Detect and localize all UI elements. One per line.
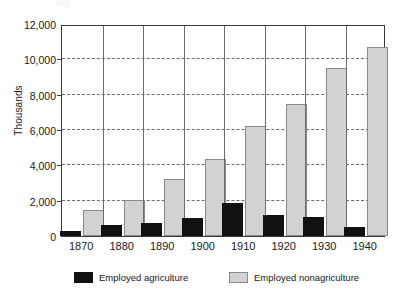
bar-agriculture <box>101 225 122 236</box>
y-axis-tick-label: 12,000 <box>12 20 56 30</box>
bar-nonagriculture <box>367 47 388 236</box>
gridline-vertical-group-separator <box>184 26 185 236</box>
legend-item-agriculture: Employed agriculture <box>74 272 188 283</box>
legend-swatch-agriculture-icon <box>74 272 93 283</box>
bar-agriculture <box>182 218 203 236</box>
y-axis-tick-label: 0 <box>12 232 56 242</box>
y-axis-tick-label: 6,000 <box>12 126 56 136</box>
plot-inner <box>62 26 384 236</box>
y-axis-tick-label: 4,000 <box>12 161 56 171</box>
x-axis-tick-label: 1930 <box>304 240 345 252</box>
y-axis-tick-label: 10,000 <box>12 55 56 65</box>
y-axis-tick-label: 2,000 <box>12 197 56 207</box>
x-axis-tick-label: 1910 <box>223 240 264 252</box>
bar-agriculture <box>344 227 365 236</box>
gridline-vertical-group-separator <box>305 26 306 236</box>
bar-agriculture <box>222 203 243 236</box>
page-edge-artifact <box>56 0 70 7</box>
x-axis-tick-label: 1920 <box>264 240 305 252</box>
x-axis-tick-label: 1880 <box>102 240 143 252</box>
gridline-horizontal <box>62 58 384 59</box>
bar-agriculture <box>303 217 324 236</box>
legend-item-nonagriculture: Employed nonagriculture <box>229 272 359 283</box>
x-axis-tick-label: 1900 <box>183 240 224 252</box>
bar-nonagriculture <box>326 68 347 236</box>
y-axis-title: Thousands <box>13 66 24 156</box>
x-axis-tick-label: 1940 <box>345 240 386 252</box>
bar-agriculture <box>141 223 162 236</box>
legend-label-nonagriculture: Employed nonagriculture <box>254 272 359 283</box>
bar-agriculture <box>263 215 284 236</box>
legend-swatch-nonagriculture-icon <box>229 272 248 283</box>
x-axis-tick-label: 1890 <box>142 240 183 252</box>
plot-area <box>61 25 385 237</box>
y-axis-tick-label: 8,000 <box>12 91 56 101</box>
gridline-vertical-group-separator <box>143 26 144 236</box>
gridline-vertical-group-separator <box>103 26 104 236</box>
chart-legend: Employed agriculture Employed nonagricul… <box>61 272 385 288</box>
bar-agriculture <box>60 231 81 236</box>
x-axis-tick-label: 1870 <box>61 240 102 252</box>
legend-label-agriculture: Employed agriculture <box>99 272 188 283</box>
gridline-vertical-group-separator <box>265 26 266 236</box>
gridline-vertical-group-separator <box>346 26 347 236</box>
bar-chart: Thousands 02,0004,0006,0008,00010,00012,… <box>0 0 400 299</box>
